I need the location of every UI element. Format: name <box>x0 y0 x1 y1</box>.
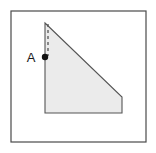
geometry-figure-svg: A <box>0 0 156 153</box>
point-a-marker <box>42 54 48 60</box>
point-a-label: A <box>27 50 36 65</box>
geometry-figure-container: A <box>0 0 156 153</box>
